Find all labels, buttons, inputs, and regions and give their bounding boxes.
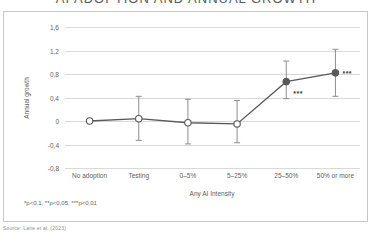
x-tick-label: 0–5%	[180, 172, 197, 179]
significance-label: ***	[342, 69, 352, 76]
y-tick-label: 0,4	[50, 94, 59, 101]
source-attribution: Source: Lane et al. (2023)	[3, 225, 66, 231]
data-point-filled	[332, 69, 339, 76]
significance-footnote: *p<0,1, **p<0,05, ***p<0,01	[24, 200, 97, 206]
x-tick-label: 25–50%	[274, 172, 298, 179]
data-point-filled	[283, 78, 290, 85]
data-point-hollow	[86, 118, 92, 124]
x-tick-label: 5–25%	[227, 172, 247, 179]
gridline	[65, 168, 360, 169]
x-tick-label: No adoption	[72, 172, 107, 179]
y-tick-label: 0,8	[50, 71, 59, 78]
y-tick-label: 1,2	[50, 47, 59, 54]
series-line	[90, 73, 336, 124]
data-point-hollow	[234, 121, 240, 127]
chart-title: AI ADOPTION AND ANNUAL GROWTH	[0, 0, 372, 6]
y-tick-label: 1,6	[50, 24, 59, 31]
x-tick-label: 50% or more	[317, 172, 354, 179]
significance-label: ***	[293, 89, 303, 96]
y-tick-label: 0	[55, 118, 59, 125]
plot-area: 1,61,20,80,40-0,4-0,8 No adoptionTesting…	[65, 27, 360, 168]
chart-title-strip: AI ADOPTION AND ANNUAL GROWTH	[0, 0, 372, 10]
y-tick-label: -0,8	[48, 165, 59, 172]
data-point-hollow	[185, 120, 191, 126]
x-tick-label: Testing	[128, 172, 149, 179]
series-plot	[65, 27, 360, 168]
x-axis-title: Any AI Intensity	[190, 190, 235, 197]
chart-panel: Annual growth Any AI Intensity *p<0,1, *…	[3, 11, 368, 222]
y-axis-title: Annual growth	[23, 77, 30, 119]
data-point-hollow	[136, 115, 142, 121]
y-tick-label: -0,4	[48, 141, 59, 148]
